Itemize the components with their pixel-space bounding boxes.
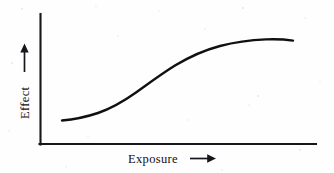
up-arrow-icon (20, 44, 28, 73)
exposure-effect-chart: Effect Exposure (0, 0, 334, 173)
y-axis-label: Effect (18, 86, 32, 119)
figure-container: Effect Exposure (0, 0, 334, 173)
right-arrow-icon (190, 154, 216, 162)
y-axis-label-group: Effect (18, 44, 32, 120)
chart-axes (40, 14, 317, 145)
x-axis-label-group: Exposure (128, 152, 216, 166)
dose-response-curve (62, 39, 293, 120)
x-axis-label: Exposure (128, 152, 178, 166)
chart-plot-area (62, 39, 293, 120)
